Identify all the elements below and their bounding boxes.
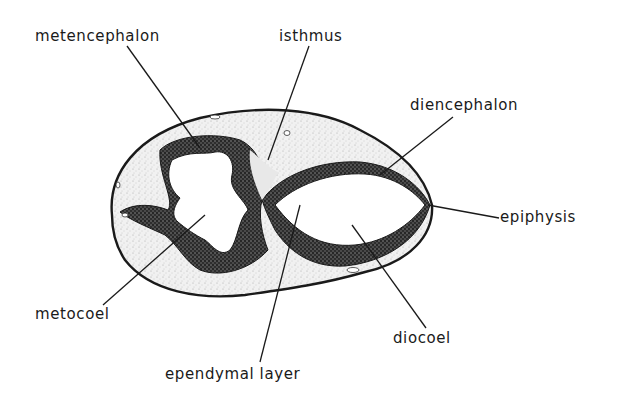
embryonic-brain-section-diagram: metencephalonisthmusdiencephalonepiphysi…	[0, 0, 621, 406]
vessel	[210, 115, 220, 119]
label-epiphysis: epiphysis	[500, 208, 576, 226]
label-ependymal-layer: ependymal layer	[165, 365, 300, 383]
epiphysis-leader-line	[428, 205, 499, 218]
vessel	[122, 213, 128, 217]
vessel	[347, 268, 359, 273]
diencephalon-leader-line	[380, 117, 453, 175]
label-isthmus: isthmus	[279, 27, 343, 45]
label-diocoel: diocoel	[393, 329, 451, 347]
vessel	[116, 182, 120, 188]
label-metencephalon: metencephalon	[35, 27, 160, 45]
vessel	[284, 131, 290, 136]
label-metocoel: metocoel	[35, 305, 110, 323]
label-diencephalon: diencephalon	[410, 96, 518, 114]
